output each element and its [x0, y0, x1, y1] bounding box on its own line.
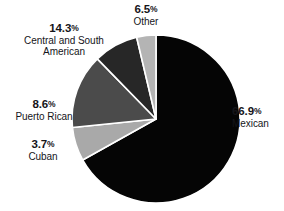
slice-label-other: Other: [116, 16, 176, 27]
slice-percent-central-and-south-american: 14.3%: [8, 22, 120, 35]
pie-wedge-group: [72, 35, 240, 203]
slice-callout-mexican: 66.9% Mexican: [232, 105, 284, 129]
slice-percent-mexican: 66.9%: [232, 105, 284, 118]
slice-percent-puerto-rican: 8.6%: [6, 98, 82, 111]
slice-label-mexican: Mexican: [232, 118, 284, 129]
slice-label-cuban: Cuban: [10, 151, 76, 162]
slice-percent-other: 6.5%: [116, 3, 176, 16]
slice-label-puerto-rican: Puerto Rican: [6, 111, 82, 122]
slice-callout-central-and-south-american: 14.3% Central and South American: [8, 22, 120, 57]
slice-percent-cuban: 3.7%: [10, 138, 76, 151]
slice-callout-cuban: 3.7% Cuban: [10, 138, 76, 162]
slice-callout-other: 6.5% Other: [116, 3, 176, 27]
slice-callout-puerto-rican: 8.6% Puerto Rican: [6, 98, 82, 122]
slice-label-central-and-south-american: Central and South American: [8, 35, 120, 57]
pie-chart-figure: 6.5% Other 14.3% Central and South Ameri…: [0, 0, 284, 211]
